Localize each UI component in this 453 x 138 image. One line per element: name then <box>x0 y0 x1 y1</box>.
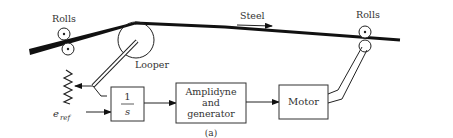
svg-text:Amplidyne: Amplidyne <box>184 86 237 97</box>
steel-label: Steel <box>240 10 265 21</box>
potentiometer-icon <box>64 70 72 104</box>
svg-text:s: s <box>125 106 130 117</box>
svg-text:1: 1 <box>124 91 130 102</box>
e-ref-subscript: ref <box>60 114 71 122</box>
motor-shaft <box>328 47 367 103</box>
motor-block: Motor <box>279 85 328 119</box>
looper-label: Looper <box>135 59 169 70</box>
integrator-block: 1 s <box>111 87 144 121</box>
svg-text:and: and <box>202 97 220 108</box>
e-ref-label: e <box>53 108 59 119</box>
diagram-canvas: e ref 1 s Amplidyne and generator Motor … <box>0 0 453 138</box>
svg-text:Motor: Motor <box>288 96 319 107</box>
steel-direction-arrow <box>237 25 272 26</box>
figure-caption: (a) <box>205 128 217 138</box>
steel-strip <box>29 22 400 55</box>
amplidyne-block: Amplidyne and generator <box>176 83 246 123</box>
pot-to-integrator-line <box>93 86 107 96</box>
svg-text:generator: generator <box>187 108 235 119</box>
rolls-right-label: Rolls <box>356 9 380 20</box>
rolls-left-label: Rolls <box>52 13 76 24</box>
